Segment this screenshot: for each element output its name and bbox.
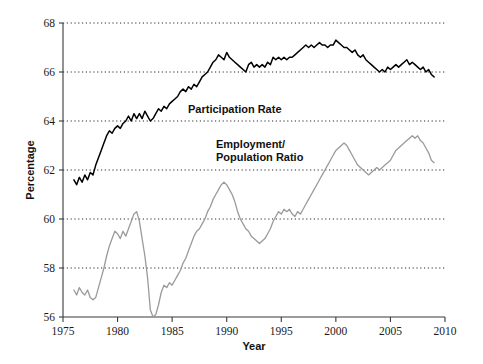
chart-background (0, 0, 483, 364)
annotation-employment-line2: Population Ratio (216, 151, 304, 163)
annotation-participation-rate: Participation Rate (188, 103, 282, 115)
x-tick-label-1990: 1990 (215, 325, 238, 337)
x-tick-label-1985: 1985 (161, 325, 184, 337)
y-tick-label-64: 64 (44, 115, 56, 127)
line-chart: 56586062646668 1975198019851990199520002… (0, 0, 483, 364)
x-tick-label-1975: 1975 (52, 325, 75, 337)
x-tick-label-2010: 2010 (434, 325, 457, 337)
annotation-employment-line1: Employment/ (216, 138, 285, 150)
y-tick-label-62: 62 (44, 164, 56, 176)
x-axis-title: Year (242, 340, 266, 352)
y-tick-label-56: 56 (44, 311, 56, 323)
x-tick-label-1995: 1995 (270, 325, 293, 337)
y-tick-label-60: 60 (44, 213, 56, 225)
y-tick-label-58: 58 (44, 262, 56, 274)
x-tick-label-2000: 2000 (324, 325, 347, 337)
y-axis-title: Percentage (24, 140, 36, 199)
y-tick-label-66: 66 (44, 66, 56, 78)
x-tick-label-1980: 1980 (106, 325, 129, 337)
y-tick-label-68: 68 (44, 17, 56, 29)
x-tick-label-2005: 2005 (379, 325, 402, 337)
chart-container: 56586062646668 1975198019851990199520002… (0, 0, 483, 364)
